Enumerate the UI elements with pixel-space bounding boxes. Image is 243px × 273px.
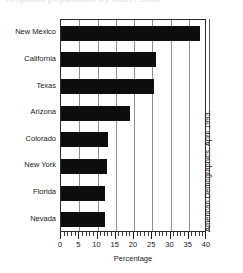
bar [61, 159, 107, 174]
axis-tick-minor [122, 232, 123, 236]
category-axis-labels: NevadaFloridaNew YorkColoradoArizonaTexa… [0, 19, 56, 232]
x-tick-label: 15 [111, 240, 119, 249]
category-label: New York [0, 161, 56, 169]
bar [61, 79, 154, 94]
axis-tick-major [60, 232, 61, 239]
axis-tick-major [170, 232, 171, 239]
axis-tick-minor [177, 232, 178, 236]
axis-tick-minor [75, 232, 76, 236]
axis-tick-minor [159, 232, 160, 236]
bar [61, 106, 130, 121]
plot-area [60, 19, 206, 232]
category-label: Colorado [0, 135, 56, 143]
x-axis-title: Percentage [60, 254, 206, 263]
axis-tick-minor [82, 232, 83, 236]
category-label: Nevada [0, 215, 56, 223]
chart-title-cutoff: Hispanic population by state, 1990 [6, 0, 206, 6]
bar [61, 132, 108, 147]
axis-tick-major [188, 232, 189, 239]
x-tick-label: 40 [202, 240, 210, 249]
axis-tick-minor [129, 232, 130, 236]
axis-tick-minor [107, 232, 108, 236]
axis-tick-minor [86, 232, 87, 236]
bar-series [61, 20, 205, 231]
category-label: Arizona [0, 108, 56, 116]
source-note: American Demographics, April 1993. [203, 110, 212, 232]
axis-tick-minor [111, 232, 112, 236]
x-tick-label: 10 [92, 240, 100, 249]
bar [61, 52, 156, 67]
axis-tick-minor [162, 232, 163, 236]
x-tick-label: 20 [129, 240, 137, 249]
axis-tick-minor [195, 232, 196, 236]
x-axis-ticks [60, 232, 206, 239]
category-label: Florida [0, 188, 56, 196]
axis-tick-minor [140, 232, 141, 236]
x-tick-label: 5 [76, 240, 80, 249]
axis-tick-minor [104, 232, 105, 236]
bar [61, 26, 200, 41]
axis-tick-major [151, 232, 152, 239]
x-tick-label: 25 [147, 240, 155, 249]
axis-tick-minor [184, 232, 185, 236]
axis-tick-minor [180, 232, 181, 236]
axis-tick-minor [100, 232, 101, 236]
axis-tick-minor [191, 232, 192, 236]
category-label: New Mexico [0, 28, 56, 36]
axis-tick-minor [148, 232, 149, 236]
axis-tick-minor [155, 232, 156, 236]
axis-tick-minor [166, 232, 167, 236]
axis-tick-minor [64, 232, 65, 236]
axis-tick-major [78, 232, 79, 239]
x-tick-label: 35 [184, 240, 192, 249]
axis-tick-minor [93, 232, 94, 236]
axis-tick-minor [71, 232, 72, 236]
bar [61, 212, 105, 227]
axis-tick-minor [173, 232, 174, 236]
bar [61, 186, 105, 201]
source-note-container: American Demographics, April 1993. [209, 19, 225, 232]
axis-tick-minor [89, 232, 90, 236]
axis-tick-major [115, 232, 116, 239]
axis-tick-minor [118, 232, 119, 236]
axis-tick-major [205, 232, 206, 239]
category-label: Texas [0, 82, 56, 90]
axis-tick-minor [144, 232, 145, 236]
axis-tick-minor [126, 232, 127, 236]
x-axis-tick-labels: 0510152025303540 [60, 240, 206, 251]
chart-figure: Hispanic population by state, 1990 Nevad… [0, 0, 243, 273]
axis-tick-major [133, 232, 134, 239]
axis-tick-minor [202, 232, 203, 236]
axis-tick-major [97, 232, 98, 239]
x-tick-label: 30 [165, 240, 173, 249]
category-label: California [0, 55, 56, 63]
axis-tick-minor [199, 232, 200, 236]
axis-tick-minor [67, 232, 68, 236]
axis-tick-minor [137, 232, 138, 236]
x-tick-label: 0 [58, 240, 62, 249]
